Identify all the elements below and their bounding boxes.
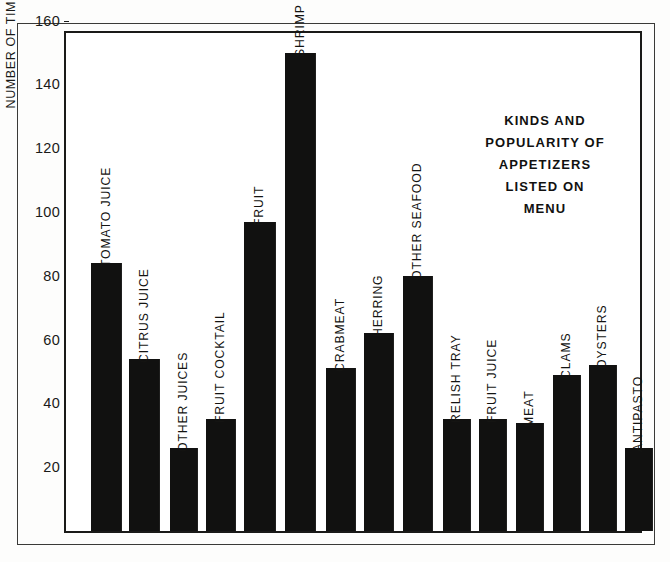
bar-label: FRUIT JUICE xyxy=(485,339,499,423)
bar[interactable] xyxy=(129,359,160,531)
chart-title-line: KINDS AND xyxy=(452,110,638,132)
bar-label: OTHER SEAFOOD xyxy=(410,162,424,279)
chart-title-line: MENU xyxy=(452,198,638,220)
bar[interactable] xyxy=(326,368,356,531)
y-axis-tick-labels: 16014012010080604020 xyxy=(14,0,60,562)
bar-label: FRUIT xyxy=(252,185,266,225)
chart-figure: NUMBER OF TIMES LISTED 16014012010080604… xyxy=(0,0,670,562)
bar-label: CITRUS JUICE xyxy=(137,268,151,363)
bar[interactable] xyxy=(479,419,507,531)
y-tick-label: 140 xyxy=(16,76,60,92)
bar[interactable] xyxy=(206,419,236,531)
chart-title-line: POPULARITY OF xyxy=(452,132,638,154)
y-tick-label: 20 xyxy=(16,459,60,475)
bar[interactable] xyxy=(553,375,581,531)
bar-label: OYSTERS xyxy=(595,305,609,370)
bar[interactable] xyxy=(516,423,544,531)
bar-label: ANTIPASTO xyxy=(631,376,645,452)
bar[interactable] xyxy=(91,263,122,531)
bar[interactable] xyxy=(364,333,394,531)
y-tick-label: 160 xyxy=(16,13,60,29)
y-tick-mark xyxy=(64,21,69,23)
chart-title-line: LISTED ON xyxy=(452,176,638,198)
bar[interactable] xyxy=(625,448,653,531)
bar-label: RELISH TRAY xyxy=(449,335,463,424)
bar-label: CRABMEAT xyxy=(333,298,347,372)
bar[interactable] xyxy=(244,222,276,531)
y-tick-label: 80 xyxy=(16,268,60,284)
bar-label: MEAT xyxy=(522,390,536,427)
bar[interactable] xyxy=(285,53,316,532)
y-tick-label: 100 xyxy=(16,204,60,220)
chart-title-line: APPETIZERS xyxy=(452,154,638,176)
bar-label: HERRING xyxy=(371,275,385,338)
y-tick-label: 60 xyxy=(16,332,60,348)
bar[interactable] xyxy=(589,365,617,531)
chart-title: KINDS ANDPOPULARITY OFAPPETIZERSLISTED O… xyxy=(452,110,638,220)
y-tick-label: 40 xyxy=(16,395,60,411)
bar-label: FRUIT COCKTAIL xyxy=(213,312,227,424)
bar[interactable] xyxy=(170,448,198,531)
bar-label: SHRIMP COCKTAIL xyxy=(293,0,307,57)
y-tick-label: 120 xyxy=(16,140,60,156)
bar[interactable] xyxy=(443,419,471,531)
bar-label: OTHER JUICES xyxy=(176,352,190,452)
bar[interactable] xyxy=(403,276,433,531)
bar-label: TOMATO JUICE xyxy=(99,167,113,267)
bar-label: CLAMS xyxy=(559,332,573,379)
